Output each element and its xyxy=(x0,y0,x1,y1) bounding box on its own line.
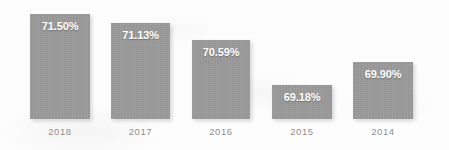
bar-chart: 71.50% 2018 71.13% 2017 70.59% 2016 69.1… xyxy=(0,0,449,150)
bar-2014[interactable] xyxy=(353,62,413,119)
bar-2016[interactable] xyxy=(192,40,250,119)
bar-2018[interactable] xyxy=(30,14,90,119)
bar-group-2: 70.59% 2016 xyxy=(192,0,250,150)
bar-group-3: 69.18% 2015 xyxy=(272,0,332,150)
category-label-2014: 2014 xyxy=(353,126,413,137)
bar-2015[interactable] xyxy=(272,85,332,119)
plot-area: 71.50% 2018 71.13% 2017 70.59% 2016 69.1… xyxy=(0,0,449,150)
bar-group-1: 71.13% 2017 xyxy=(111,0,170,150)
bar-group-4: 69.90% 2014 xyxy=(353,0,413,150)
category-label-2018: 2018 xyxy=(30,126,90,137)
category-label-2016: 2016 xyxy=(192,126,250,137)
bar-group-0: 71.50% 2018 xyxy=(30,0,90,150)
category-label-2017: 2017 xyxy=(111,126,170,137)
category-label-2015: 2015 xyxy=(272,126,332,137)
bar-2017[interactable] xyxy=(111,23,170,119)
